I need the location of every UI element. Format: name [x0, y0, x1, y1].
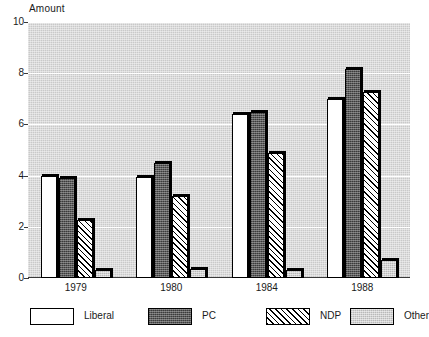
x-axis-tick-labels: 1979198019841988	[28, 282, 410, 296]
bar-ndp-1980	[172, 196, 188, 278]
y-tick-4: 4	[2, 170, 24, 181]
bar-fill	[328, 100, 342, 277]
legend-swatch-other	[350, 308, 394, 325]
legend-label-pc: PC	[202, 310, 216, 321]
legend-swatch-liberal	[30, 308, 74, 325]
legend-swatch-pc	[148, 308, 192, 325]
bar-fill	[42, 177, 56, 277]
bar-fill	[346, 70, 360, 277]
bar-fill	[382, 261, 396, 277]
bar-ndp-1988	[363, 92, 379, 278]
legend-label-liberal: Liberal	[84, 310, 114, 321]
bar-ndp-1984	[268, 153, 284, 278]
bar-fill	[364, 93, 378, 277]
bar-other-1980	[190, 269, 206, 278]
bar-fill	[96, 271, 110, 277]
bar-pc-1979	[59, 178, 75, 278]
bar-fill	[191, 270, 205, 277]
chart-legend: LiberalPCNDPOther	[0, 306, 423, 330]
bar-liberal-1980	[136, 177, 152, 278]
bar-other-1984	[286, 270, 302, 278]
legend-label-other: Other	[404, 310, 429, 321]
plot-area	[28, 22, 410, 278]
bars-layer	[28, 22, 410, 278]
bar-shadow-right	[92, 218, 95, 278]
legend-label-ndp: NDP	[320, 310, 341, 321]
bar-shadow-right	[187, 194, 190, 278]
bar-fill	[251, 113, 265, 277]
bar-liberal-1984	[232, 114, 248, 278]
bar-other-1988	[381, 260, 397, 278]
bar-pc-1980	[154, 163, 170, 278]
y-tick-0: 0	[2, 272, 24, 283]
bar-shadow-right	[378, 90, 381, 278]
x-tick-1988: 1988	[332, 282, 392, 293]
bar-fill	[60, 179, 74, 277]
bar-shadow-right	[283, 151, 286, 278]
bar-fill	[155, 164, 169, 277]
y-tick-2: 2	[2, 221, 24, 232]
x-tick-1984: 1984	[237, 282, 297, 293]
x-tick-1980: 1980	[141, 282, 201, 293]
bar-fill	[233, 115, 247, 277]
bar-ndp-1979	[77, 220, 93, 278]
legend-swatch-ndp	[266, 308, 310, 325]
x-tick-1979: 1979	[46, 282, 106, 293]
y-axis-title: Amount	[29, 3, 65, 14]
bar-pc-1984	[250, 112, 266, 278]
bar-fill	[173, 197, 187, 277]
y-tick-8: 8	[2, 67, 24, 78]
bar-fill	[137, 178, 151, 277]
bar-pc-1988	[345, 69, 361, 278]
bar-fill	[287, 271, 301, 277]
bar-fill	[78, 221, 92, 277]
bar-liberal-1988	[327, 99, 343, 278]
bar-liberal-1979	[41, 176, 57, 278]
y-axis-tick-labels: 0246810	[0, 22, 24, 278]
y-tick-10: 10	[2, 16, 24, 27]
bar-fill	[269, 154, 283, 277]
y-tick-6: 6	[2, 118, 24, 129]
bar-other-1979	[95, 270, 111, 278]
